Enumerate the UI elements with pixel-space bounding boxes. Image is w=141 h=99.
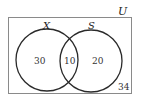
set-s-label: S [88, 20, 95, 31]
set-x-label: X [42, 20, 51, 31]
universe-label: U [118, 5, 128, 18]
venn-diagram: U X S 30 10 20 34 [0, 0, 141, 99]
outside-value: 34 [118, 82, 130, 92]
x-only-value: 30 [34, 56, 46, 66]
s-only-value: 20 [92, 56, 104, 66]
intersection-value: 10 [64, 56, 76, 66]
